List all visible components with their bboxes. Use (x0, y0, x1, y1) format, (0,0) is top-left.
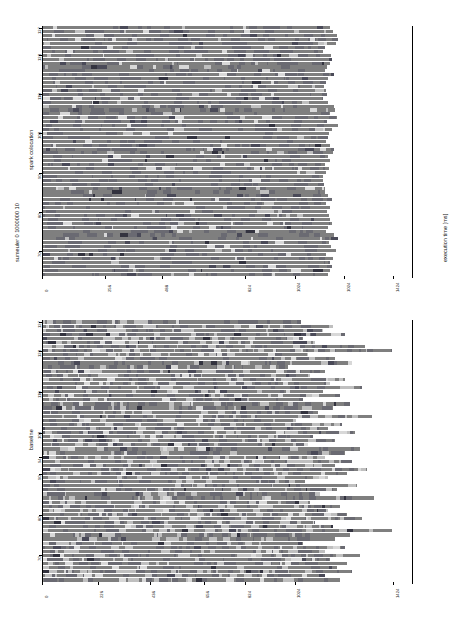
value-tick (42, 276, 43, 279)
value-tick-label: 256 (107, 285, 112, 292)
value-tick-label: 1424 (395, 589, 400, 598)
category-tick-label: 70 (37, 557, 42, 562)
category-tick-label: 90 (37, 475, 42, 480)
value-tick (295, 276, 296, 279)
category-tick-label: 80 (37, 213, 42, 218)
value-tick-label: 656 (205, 591, 210, 598)
category-tick-label: 110 (37, 94, 42, 101)
value-tick (98, 582, 99, 585)
panel-baseline: baseline 0226436656824102414241271201101… (0, 300, 451, 626)
value-tick-label: 436 (151, 591, 156, 598)
value-tick (245, 582, 246, 585)
value-tick (204, 582, 205, 585)
value-tick-label: 0 (44, 290, 49, 292)
value-tick-label: 824 (247, 285, 252, 292)
ticks-spark: 0256488824102410241424127120110100908070 (0, 0, 451, 300)
category-tick-label: 110 (37, 391, 42, 398)
category-tick-label: 100 (37, 132, 42, 139)
category-tick-label: 100 (37, 432, 42, 439)
category-tick-label: 127 (37, 27, 42, 34)
value-tick-label: 226 (99, 591, 104, 598)
value-tick (150, 582, 151, 585)
value-tick (393, 276, 394, 279)
value-tick-label: 1024 (346, 283, 351, 292)
value-tick (295, 582, 296, 585)
value-tick (344, 276, 345, 279)
value-tick-label: 0 (44, 596, 49, 598)
panel-spark-colocation: spark colocation 02564888241024102414241… (0, 0, 451, 300)
value-tick-label: 1424 (395, 283, 400, 292)
category-tick-label: 120 (37, 350, 42, 357)
category-tick-label: 120 (37, 54, 42, 61)
value-tick-label: 1024 (296, 283, 301, 292)
category-tick-label: 94 (37, 458, 42, 463)
value-tick (162, 276, 163, 279)
value-tick (105, 276, 106, 279)
category-tick-label: 70 (37, 252, 42, 257)
category-tick-label: 80 (37, 516, 42, 521)
value-tick (245, 276, 246, 279)
value-tick (42, 582, 43, 585)
ticks-baseline: 0226436656824102414241271201101009490807… (0, 300, 451, 626)
value-tick-label: 488 (164, 285, 169, 292)
figure-root: sumeuler 0 1000000 10 execution time [ms… (0, 0, 451, 626)
value-tick (393, 582, 394, 585)
category-tick-label: 127 (37, 321, 42, 328)
category-tick-label: 90 (37, 174, 42, 179)
value-tick-label: 1024 (296, 589, 301, 598)
value-tick-label: 824 (247, 591, 252, 598)
